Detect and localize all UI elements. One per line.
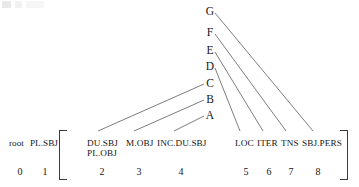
node-letter-B: B xyxy=(204,94,216,106)
slot-index-5: 5 xyxy=(239,167,253,177)
slot-index-7: 7 xyxy=(284,167,298,177)
connector-B-to-3 xyxy=(134,100,204,131)
node-letter-A: A xyxy=(204,110,216,122)
connector-F-to-7 xyxy=(215,34,286,131)
slot-index-0: 0 xyxy=(13,167,27,177)
slot-label-pl-sbj: PL.SBJ xyxy=(30,138,58,149)
slot-index-2: 2 xyxy=(95,167,109,177)
top-left-crop-artifact xyxy=(2,1,44,8)
left-bracket xyxy=(59,130,67,180)
connector-A-to-4 xyxy=(174,116,204,131)
slot-label-loc: LOC xyxy=(235,138,254,149)
slot-index-6: 6 xyxy=(262,167,276,177)
slot-index-8: 8 xyxy=(311,167,325,177)
node-letter-G: G xyxy=(204,6,216,18)
slot-label-du-sbj: DU.SBJ xyxy=(87,138,118,149)
node-letter-F: F xyxy=(204,27,216,39)
node-letter-E: E xyxy=(204,45,216,57)
slot-label-iter: ITER xyxy=(257,138,278,149)
slot-index-4: 4 xyxy=(174,167,188,177)
morphology-template-figure: G F E D C B A root PL.SBJ DU.SBJ PL.OBJ … xyxy=(0,0,359,187)
connector-G-to-8 xyxy=(215,13,313,131)
slot-label-inc-du-sbj: INC.DU.SBJ xyxy=(157,138,207,149)
slot-label-sbj-pers: SBJ.PERS xyxy=(302,138,342,149)
slot-index-1: 1 xyxy=(38,167,52,177)
node-letter-D: D xyxy=(204,61,216,73)
connector-E-to-6 xyxy=(215,52,263,131)
slot-index-3: 3 xyxy=(132,167,146,177)
slot-label-tns: TNS xyxy=(281,138,299,149)
connector-D-to-5 xyxy=(215,68,240,131)
slot-label-root: root xyxy=(9,138,24,149)
connector-lines-layer xyxy=(0,0,359,187)
node-letter-C: C xyxy=(204,78,216,90)
slot-label-m-obj: M.OBJ xyxy=(126,138,153,149)
slot-label-pl-obj: PL.OBJ xyxy=(87,148,117,159)
connector-C-to-2 xyxy=(98,84,204,131)
